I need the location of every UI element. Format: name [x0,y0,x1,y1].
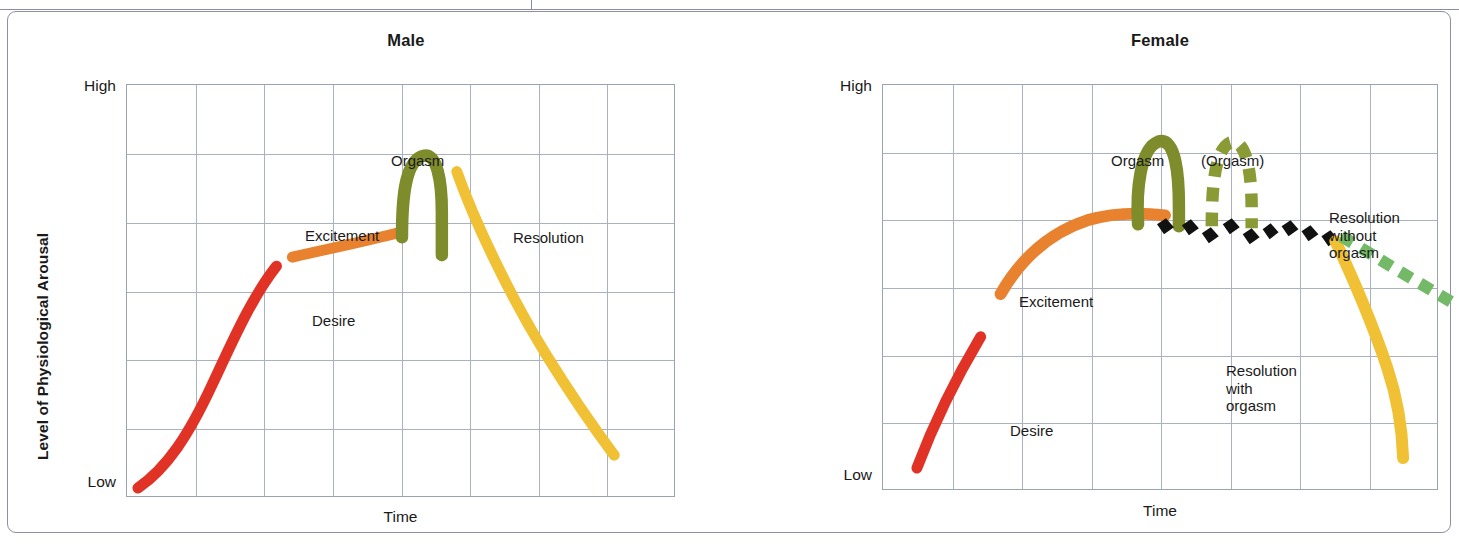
plot-area-female: Desire Excitement Orgasm (Orgasm) Resolu… [882,84,1438,490]
curve-label-orgasm-female: Orgasm [1111,152,1164,170]
y-tick-high-male: High [62,77,116,95]
curve-label-orgasm-optional-female: (Orgasm) [1201,152,1264,170]
x-axis-label-male: Time [126,508,675,526]
curve-resolution-with-orgasm-female [1335,241,1403,458]
curve-label-excitement-female: Excitement [1019,293,1093,311]
curve-label-resolution-with-orgasm-female: Resolution with orgasm [1226,362,1297,415]
curve-label-resolution-male: Resolution [513,229,584,247]
curve-label-excitement-male: Excitement [305,227,379,245]
curve-resolution-male [457,172,614,456]
curve-label-desire-female: Desire [1010,422,1053,440]
panel-title-female: Female [882,31,1438,50]
curves-male [127,85,674,496]
curve-desire-male [138,266,276,488]
x-axis-label-female: Time [882,502,1438,520]
panel-female: Female Level of Physiological Arousal Hi… [730,0,1459,551]
y-axis-label-male: Level of Physiological Arousal [34,233,52,460]
y-tick-low-female: Low [818,466,872,484]
curve-orgasm-male [402,156,442,256]
panel-male: Male Level of Physiological Arousal High… [0,0,730,551]
curve-label-orgasm-male: Orgasm [391,152,444,170]
curves-female [883,85,1437,489]
curve-desire-female [917,337,981,468]
figure-root: Male Level of Physiological Arousal High… [0,0,1459,551]
y-tick-high-female: High [818,77,872,95]
curve-label-desire-male: Desire [312,312,355,330]
panel-title-male: Male [126,31,686,50]
plot-area-male: Desire Excitement Orgasm Resolution [126,84,675,497]
curve-label-resolution-without-orgasm-female: Resolution without orgasm [1329,209,1400,262]
y-tick-low-male: Low [62,473,116,491]
